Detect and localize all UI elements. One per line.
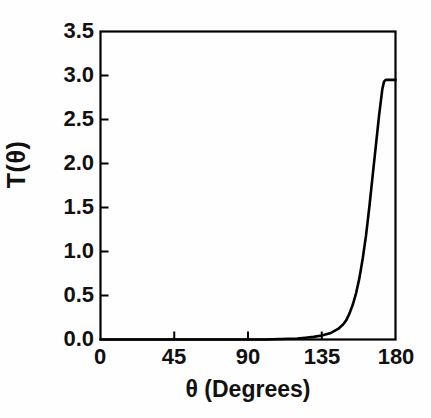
plot-area: [0, 0, 431, 418]
chart-figure: T(θ) θ (Degrees) 3.5 3.0 2.5 2.0 1.5 1.0…: [0, 0, 431, 418]
data-curve: [101, 80, 396, 340]
axis-frame: [101, 32, 396, 340]
tick-marks: [101, 76, 322, 340]
